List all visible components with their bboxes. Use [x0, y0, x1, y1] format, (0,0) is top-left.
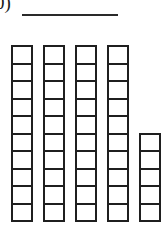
unit-square — [107, 203, 129, 223]
block-columns-group — [0, 0, 168, 230]
column-5 — [139, 133, 161, 223]
column-3 — [75, 45, 97, 222]
unit-square — [139, 203, 161, 223]
figure-canvas: 0) — [0, 0, 168, 230]
unit-square — [75, 203, 97, 223]
unit-square — [11, 203, 33, 223]
column-4 — [107, 45, 129, 222]
unit-square — [43, 203, 65, 223]
column-1 — [11, 45, 33, 222]
column-2 — [43, 45, 65, 222]
